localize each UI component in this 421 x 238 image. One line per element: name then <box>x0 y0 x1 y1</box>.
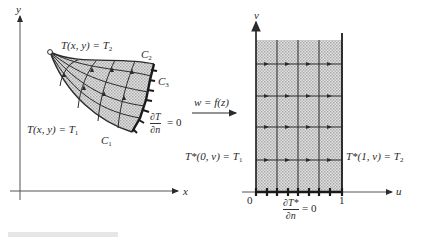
right-bc-label: T*(1, v) = T2 <box>346 151 403 164</box>
caption-fragment <box>8 232 118 237</box>
left-region <box>48 50 157 133</box>
mapping-label: w = f(z) <box>194 97 229 108</box>
left-neumann-den: ∂n <box>150 125 160 135</box>
top-boundary-condition: T(x, y) = T2 <box>61 40 112 53</box>
left-bc-label: T*(0, v) = T1 <box>185 151 242 164</box>
right-neumann-rhs: = 0 <box>302 203 316 214</box>
bottom-boundary-condition: T(x, y) = T1 <box>27 124 78 137</box>
right-bc-sub: 2 <box>400 156 404 164</box>
v-axis-label: v <box>254 10 259 21</box>
c2-sub: 2 <box>148 54 152 62</box>
left-bc-text: T*(0, v) = T <box>185 150 239 162</box>
c3-sub: 3 <box>165 81 169 89</box>
y-axis-label: y <box>16 4 21 15</box>
x-axis-label: x <box>183 186 188 197</box>
left-bc-sub: 1 <box>239 156 243 164</box>
curve-c2-label: C2 <box>141 49 152 62</box>
left-neumann-rhs: = 0 <box>167 117 181 128</box>
right-bc-text: T*(1, v) = T <box>346 150 400 162</box>
bottom-bc-text: T(x, y) = T <box>27 123 75 135</box>
u-axis-label: u <box>396 186 402 197</box>
right-region <box>256 33 342 192</box>
bottom-bc-sub: 1 <box>75 129 79 137</box>
u-one-label: 1 <box>339 195 345 206</box>
origin-label: 0 <box>247 195 253 206</box>
right-neumann-den: ∂n <box>286 211 296 221</box>
top-bc-sub: 2 <box>109 45 113 53</box>
conformal-mapping-diagram <box>0 0 421 238</box>
c1-sub: 1 <box>108 140 112 148</box>
top-bc-text: T(x, y) = T <box>61 39 109 51</box>
left-neumann-fraction: ∂T ∂n <box>150 112 161 135</box>
right-neumann-num: ∂T* <box>283 198 299 208</box>
left-neumann-num: ∂T <box>150 112 161 122</box>
curve-c1-label: C1 <box>101 135 112 148</box>
right-neumann-fraction: ∂T* ∂n <box>283 198 299 221</box>
curve-c3-label: C3 <box>158 76 169 89</box>
